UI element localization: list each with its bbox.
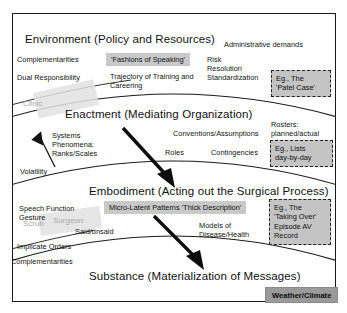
- label-conventions-assumptions: Conventions/Assumptions: [173, 129, 258, 138]
- band-title-substance: Substance (Materialization of Messages): [89, 270, 301, 282]
- label-risk: Risk: [207, 55, 221, 64]
- label-disease-health: Disease/Health: [199, 230, 249, 239]
- chip-micro-latent-patterns: Micro-Latent Patterns 'Thick Description…: [104, 201, 246, 214]
- band-title-environment: Environment (Policy and Resources): [25, 33, 215, 45]
- label-resolution: Resolution: [207, 64, 242, 73]
- label-speech-function: Speech Function: [19, 204, 74, 213]
- label-standardization: Standardization: [207, 73, 258, 82]
- example-box-patel-case: Eg., The 'Patel Case': [271, 70, 331, 97]
- label-rosters: Rosters:: [271, 120, 299, 129]
- watermark-surgeon: Surgeon: [53, 216, 83, 225]
- label-phenomena: Phenomena:: [52, 140, 94, 149]
- label-gesture: Gesture: [19, 213, 45, 222]
- label-volatility: Volatility: [20, 167, 47, 176]
- label-implicate-orders: Implicate Orders: [17, 242, 71, 251]
- label-careering: Careering: [110, 81, 142, 90]
- label-roles: Roles: [165, 148, 184, 157]
- label-contingencies: Contingencies: [211, 148, 258, 157]
- band-title-enactment: Enactment (Mediating Organization): [65, 108, 253, 120]
- chip-fashions-of-speaking: 'Fashions of Speaking': [106, 53, 190, 66]
- example-box-taking-over-episode: Eg., The 'Taking Over' Episode AV Record: [269, 199, 331, 245]
- label-models-of: Models of: [199, 221, 231, 230]
- label-trajectory-of-training: Trajectory of Training and: [110, 72, 194, 81]
- label-administrative-demands: Administrative demands: [224, 40, 303, 49]
- watermark-clinic: Clinic: [23, 99, 43, 108]
- weather-climate-tag: Weather/Climate: [265, 287, 338, 303]
- band-title-embodiment: Embodiment (Acting out the Surgical Proc…: [89, 185, 329, 197]
- example-box-lists-day-by-day: Eg., Lists day-by-day: [270, 140, 333, 167]
- label-planned-actual: planned/actual: [271, 129, 319, 138]
- label-complementarities-emb: Complementarities: [12, 257, 73, 266]
- label-said-unsaid: Said/unsaid: [75, 227, 114, 236]
- label-complementarities-env: Complementarities: [17, 55, 79, 64]
- label-dual-responsibility: Dual Responsibility: [17, 73, 80, 82]
- label-ranks-scales: Ranks/Scales: [52, 149, 97, 158]
- diagram-canvas: Climate/Weather Clinic Scrub Surgeon Env…: [0, 0, 347, 313]
- diagram-frame: Clinic Scrub Surgeon Environment (Policy…: [12, 13, 336, 302]
- label-systems: Systems: [52, 131, 80, 140]
